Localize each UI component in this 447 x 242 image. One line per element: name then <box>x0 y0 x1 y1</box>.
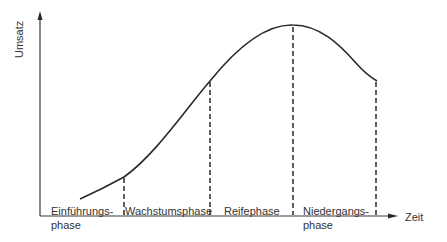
y-axis-label: Umsatz <box>13 21 25 58</box>
phase-label-1-line1: Einführungs- <box>51 205 113 217</box>
sales-curve <box>80 25 377 199</box>
y-axis-arrow-icon <box>38 11 43 20</box>
x-axis-label: Zeit <box>405 211 423 223</box>
x-axis-arrow-icon <box>388 214 398 219</box>
phase-label-2: Wachstumsphase <box>125 205 212 217</box>
phase-label-4-line2: phase <box>303 219 333 231</box>
phase-label-4-line1: Niedergangs- <box>303 205 369 217</box>
phase-label-1-line2: phase <box>51 219 81 231</box>
phase-label-3: Reifephase <box>224 205 280 217</box>
